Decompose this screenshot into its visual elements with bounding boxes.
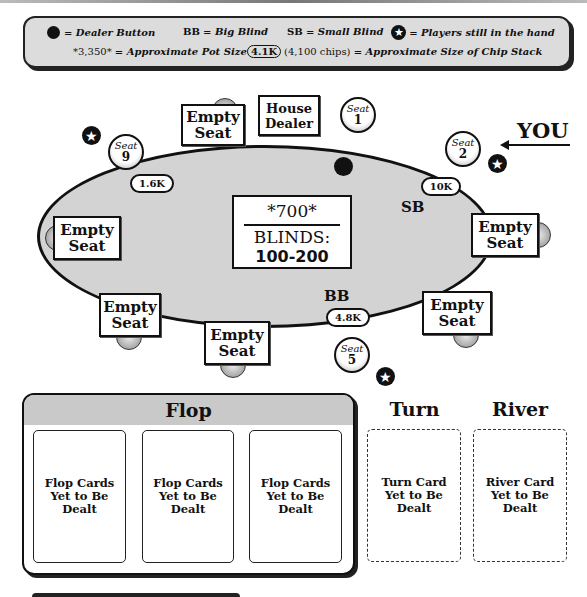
seat-cap — [220, 364, 246, 378]
legend-chip-detail: (4,100 chips) — [284, 46, 350, 57]
empty-seat-label: Empty — [424, 297, 490, 313]
legend-chip-example: 4.1K — [247, 45, 281, 58]
next-panel-edge — [32, 593, 240, 597]
chip-stack-seat-2: 10K — [421, 177, 461, 196]
seat-number: 2 — [447, 148, 479, 160]
house-dealer-label: House — [260, 101, 318, 116]
seat-5[interactable]: Seat 5 — [334, 337, 370, 373]
legend-bb-desc: = Big Blind — [203, 26, 268, 37]
card-text: Yet to Be — [51, 489, 109, 503]
dealer-button-icon — [334, 157, 353, 176]
empty-seat-bottom-left[interactable]: Empty Seat — [99, 293, 161, 337]
river-card: River CardYet to BeDealt — [473, 429, 567, 562]
seat-1[interactable]: Seat 1 — [340, 97, 376, 133]
seat-cap — [537, 222, 551, 248]
empty-seat-bottom-right[interactable]: Empty Seat — [422, 291, 492, 335]
empty-seat-label: Seat — [424, 313, 490, 329]
empty-seat-label: Seat — [206, 343, 268, 359]
legend-sb-desc: = Small Blind — [306, 26, 384, 37]
empty-seat-right[interactable]: Empty Seat — [471, 213, 539, 257]
in-hand-star-icon: ★ — [82, 126, 101, 145]
legend-dealer-button: = Dealer Button — [64, 27, 155, 38]
empty-seat-top[interactable]: Empty Seat — [181, 104, 245, 146]
legend-players-desc: = Players still in the hand — [409, 27, 555, 38]
divider — [244, 224, 340, 226]
card-text: Yet to Be — [385, 488, 443, 502]
in-hand-star-icon: ★ — [488, 154, 507, 173]
seat-cap — [453, 334, 479, 348]
card-text: River Card — [486, 475, 555, 489]
river-title: River — [473, 398, 567, 420]
card-text: Yet to Be — [159, 489, 217, 503]
empty-seat-label: Empty — [473, 219, 537, 235]
turn-title: Turn — [368, 398, 461, 420]
card-text: Dealt — [397, 501, 431, 515]
legend-chip-desc: = Approximate Size of Chip Stack — [354, 46, 543, 57]
you-label: YOU — [517, 118, 569, 143]
legend-sb-abbr: SB — [287, 26, 303, 37]
empty-seat-label: Seat — [55, 238, 119, 254]
star-icon: ★ — [391, 25, 406, 40]
house-dealer-box: House Dealer — [258, 95, 320, 136]
chip-stack-seat-9: 1.6K — [130, 174, 174, 193]
small-blind-label: SB — [401, 198, 425, 216]
pot-and-blinds-box: *700* BLINDS: 100-200 — [232, 195, 352, 269]
turn-card: Turn CardYet to BeDealt — [367, 429, 461, 562]
big-blind-label: BB — [324, 287, 349, 305]
flop-card-2: Flop CardsYet to BeDealt — [142, 430, 234, 563]
card-text: Dealt — [62, 502, 96, 516]
seat-9[interactable]: Seat 9 — [108, 134, 144, 170]
seat-number: 9 — [110, 151, 142, 163]
empty-seat-left[interactable]: Empty Seat — [53, 216, 121, 260]
card-text: Turn Card — [382, 475, 447, 489]
card-text: Dealt — [171, 502, 205, 516]
seat-number: 1 — [342, 114, 374, 126]
card-text: Yet to Be — [491, 488, 549, 502]
legend-panel: = Dealer Button BB = Big Blind SB = Smal… — [23, 16, 571, 68]
top-rule — [0, 0, 587, 3]
flop-card-3: Flop CardsYet to BeDealt — [249, 430, 342, 563]
blinds-value: 100-200 — [234, 247, 350, 267]
empty-seat-label: Empty — [101, 299, 159, 315]
legend-pot-example: *3,350* — [73, 46, 112, 57]
card-text: Flop Cards — [153, 476, 222, 490]
pot-size: *700* — [234, 200, 350, 222]
flop-card-1: Flop CardsYet to BeDealt — [33, 430, 126, 563]
empty-seat-bottom[interactable]: Empty Seat — [204, 321, 270, 365]
seat-cap — [116, 336, 142, 350]
dealer-button-icon — [47, 26, 60, 39]
card-text: Dealt — [503, 501, 537, 515]
card-text: Flop Cards — [45, 476, 114, 490]
house-dealer-label: Dealer — [260, 116, 318, 131]
empty-seat-label: Empty — [206, 327, 268, 343]
seat-number: 5 — [336, 354, 368, 366]
chip-stack-seat-5: 4.8K — [326, 308, 370, 327]
flop-title: Flop — [24, 395, 353, 425]
card-text: Flop Cards — [261, 476, 330, 490]
empty-seat-label: Seat — [183, 125, 243, 141]
legend-pot-desc: = Approximate Pot Size — [115, 46, 247, 57]
empty-seat-label: Empty — [183, 109, 243, 125]
empty-seat-label: Seat — [101, 315, 159, 331]
seat-2[interactable]: Seat 2 — [445, 131, 481, 167]
blinds-label: BLINDS: — [234, 227, 350, 247]
empty-seat-label: Empty — [55, 222, 119, 238]
arrow-shaft — [508, 144, 570, 146]
card-text: Dealt — [278, 502, 312, 516]
in-hand-star-icon: ★ — [376, 367, 395, 386]
legend-bb-abbr: BB — [183, 26, 200, 37]
empty-seat-label: Seat — [473, 235, 537, 251]
card-text: Yet to Be — [267, 489, 325, 503]
